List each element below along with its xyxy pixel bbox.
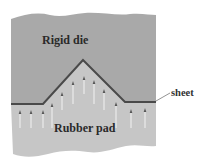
sheet-label: sheet: [171, 87, 194, 98]
rigid-die-label: Rigid die: [42, 33, 89, 47]
sheet-leader-line: [156, 93, 170, 101]
diagram-canvas: Rigid die Rubber pad sheet: [0, 0, 206, 167]
rubber-pad-label: Rubber pad: [54, 121, 116, 135]
rubber-pad-forming-diagram: Rigid die Rubber pad sheet: [0, 0, 206, 167]
